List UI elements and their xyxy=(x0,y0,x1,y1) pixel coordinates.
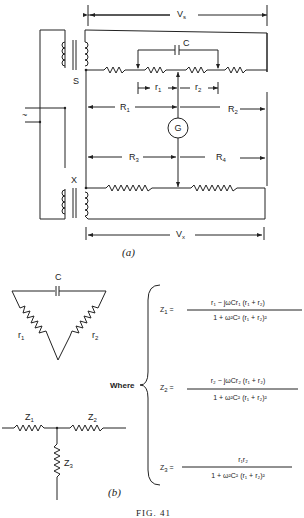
R2-label: R2 xyxy=(228,104,239,115)
where-label: Where xyxy=(110,381,135,390)
tee-z2-label: Z2 xyxy=(88,412,98,423)
vs-label: Vs xyxy=(177,9,186,20)
R1-label: R1 xyxy=(120,102,131,113)
r1-label: r1 xyxy=(155,82,162,93)
ac-source-symbol: ~ xyxy=(22,110,27,120)
r2-label: r2 xyxy=(195,82,202,93)
equation-z1: Z1 = r₁ − jωCr₁ (r₁ + r₂) 1 + ω²C² (r₁ +… xyxy=(160,299,302,322)
equation-z3: Z3 = r₁r₂ 1 + ω²C² (r₁ + r₂)² xyxy=(160,456,292,480)
figure-caption: FIG. 41 xyxy=(136,508,171,518)
delta-capacitor-label: C xyxy=(55,272,62,282)
R4-label: R4 xyxy=(216,152,227,163)
svg-text:1 + ω²C² (r₁ + r₂)²: 1 + ω²C² (r₁ + r₂)² xyxy=(211,472,265,480)
R3-label: R3 xyxy=(129,152,140,163)
svg-text:r₂ − jωCr₂ (r₁ + r₂): r₂ − jωCr₂ (r₁ + r₂) xyxy=(211,377,265,385)
equation-z2: Z2 = r₂ − jωCr₂ (r₁ + r₂) 1 + ω²C² (r₁ +… xyxy=(160,377,298,402)
figure-41: Vs ~ S xyxy=(0,0,304,518)
panel-a-label: (a) xyxy=(122,246,135,259)
transformer-x-icon xyxy=(62,188,88,219)
transformer-s-icon xyxy=(62,30,267,72)
top-resistor-chain xyxy=(86,33,267,73)
capacitor-label: C xyxy=(183,38,190,48)
bridge-circuit: Vs ~ S xyxy=(22,5,267,259)
delta-network: C r1 r2 xyxy=(12,272,106,360)
tee-z3-label: Z3 xyxy=(64,458,74,469)
svg-text:1 + ω²C² (r₁ + r₂)²: 1 + ω²C² (r₁ + r₂)² xyxy=(213,314,267,322)
svg-text:r₁r₂: r₁r₂ xyxy=(238,456,248,463)
panel-b-label: (b) xyxy=(108,486,121,499)
svg-text:r₁ − jωCr₁ (r₁ + r₂): r₁ − jωCr₁ (r₁ + r₂) xyxy=(211,299,265,307)
delta-r1-label: r1 xyxy=(18,330,25,341)
brace xyxy=(140,285,160,485)
tee-z1-label: Z1 xyxy=(25,412,35,423)
svg-text:Z3 =: Z3 = xyxy=(160,464,174,473)
bottom-resistor-chain xyxy=(86,185,265,219)
svg-text:Z2 =: Z2 = xyxy=(160,384,174,393)
svg-text:1 + ω²C² (r₁ + r₂)²: 1 + ω²C² (r₁ + r₂)² xyxy=(213,394,267,402)
transformer-x-label: X xyxy=(71,175,77,185)
svg-text:Z1 =: Z1 = xyxy=(160,306,174,315)
delta-r2-label: r2 xyxy=(92,330,99,341)
galvanometer-label: G xyxy=(175,123,182,133)
transformer-s-label: S xyxy=(73,76,79,86)
capacitor-c xyxy=(136,45,220,69)
vx-label: Vx xyxy=(176,229,185,240)
